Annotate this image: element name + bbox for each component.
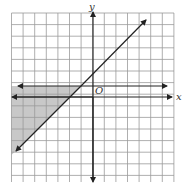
coordinate-graph: y x O <box>0 0 188 188</box>
origin-label: O <box>95 85 103 96</box>
y-axis-label: y <box>88 1 95 12</box>
diagonal-line-up <box>81 20 146 86</box>
x-axis-label: x <box>176 91 182 102</box>
